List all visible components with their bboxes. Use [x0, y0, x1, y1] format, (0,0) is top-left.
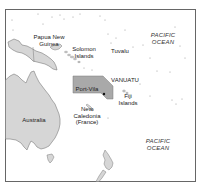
label-tuvalu: Tuvalu	[108, 48, 132, 55]
label-vanuatu: VANUATU	[108, 77, 142, 84]
label-pacific-ocean-north: PACIFIC OCEAN	[148, 32, 178, 45]
label-solomon-islands: Solomon Islands	[69, 46, 99, 59]
port-vila-dot	[103, 93, 105, 95]
label-australia: Australia	[18, 117, 50, 124]
label-port-vila: Port-Vila	[74, 86, 100, 93]
map-vanuatu-region: Papua New Guinea Solomon Islands Tuvalu …	[0, 0, 208, 187]
label-fiji-islands: Fiji Islands	[116, 93, 140, 106]
label-new-caledonia: New Caledonia (France)	[70, 106, 104, 126]
map-canvas	[0, 0, 208, 187]
label-pacific-ocean-south: PACIFIC OCEAN	[143, 138, 173, 151]
label-papua-new-guinea: Papua New Guinea	[32, 34, 66, 47]
